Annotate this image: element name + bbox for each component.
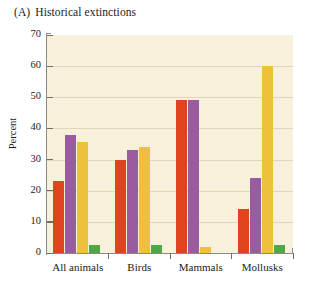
y-tick-label: 60	[13, 60, 41, 70]
bar	[53, 181, 64, 253]
y-tick-label: 10	[13, 216, 41, 226]
bar-group	[53, 35, 100, 253]
bar	[89, 245, 100, 253]
bar-group	[176, 35, 223, 253]
x-tick-mark	[108, 253, 109, 259]
bar-group	[115, 35, 162, 253]
bar	[127, 150, 138, 253]
bar	[176, 100, 187, 253]
y-tick-label: 20	[13, 185, 41, 195]
x-tick-mark	[293, 253, 294, 259]
panel-letter: (A)	[14, 6, 30, 18]
bar	[200, 247, 211, 253]
figure-panel-a: (A)Historical extinctions Percent 010203…	[0, 0, 311, 292]
x-tick-label: All animals	[47, 261, 109, 273]
y-tick-mark	[47, 221, 53, 222]
y-tick-label: 0	[13, 247, 41, 257]
x-tick-mark	[231, 253, 232, 259]
y-tick-label: 40	[13, 122, 41, 132]
bar	[151, 245, 162, 253]
x-tick-label: Mammals	[170, 261, 232, 273]
x-tick-label: Mollusks	[232, 261, 294, 273]
y-tick-label: 50	[13, 91, 41, 101]
page-title: (A)Historical extinctions	[14, 6, 136, 18]
bar	[188, 100, 199, 253]
y-tick-mark	[47, 97, 53, 98]
y-tick-mark	[47, 35, 53, 36]
bar-group	[238, 35, 285, 253]
bar	[115, 160, 126, 253]
bar	[262, 66, 273, 253]
bar	[250, 178, 261, 253]
bar	[274, 245, 285, 253]
bar	[139, 147, 150, 253]
y-tick-mark	[47, 253, 53, 254]
bar	[65, 135, 76, 253]
x-tick-label: Birds	[109, 261, 171, 273]
y-tick-mark	[47, 66, 53, 67]
y-tick-mark	[47, 128, 53, 129]
y-tick-mark	[47, 190, 53, 191]
bar	[77, 142, 88, 253]
y-tick-label: 70	[13, 29, 41, 39]
y-tick-mark	[47, 159, 53, 160]
panel-title-text: Historical extinctions	[35, 6, 136, 18]
y-tick-label: 30	[13, 154, 41, 164]
bar	[238, 209, 249, 253]
x-tick-mark	[170, 253, 171, 259]
